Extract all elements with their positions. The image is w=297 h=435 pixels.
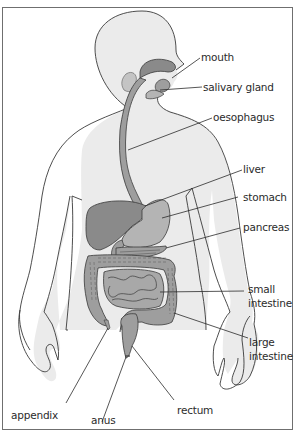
rectum-shape [121,314,138,358]
label-small-intestine-line2: intestine [248,297,292,309]
label-large-intestine-line2: intestine [249,350,293,362]
label-oesophagus: oesophagus [213,111,274,123]
label-anus: anus [91,414,115,426]
label-liver: liver [243,163,265,175]
label-appendix: appendix [11,409,58,421]
label-pancreas: pancreas [243,221,289,233]
label-mouth: mouth [201,51,234,63]
label-salivary-gland: salivary gland [203,81,274,93]
label-rectum: rectum [177,404,213,416]
digestive-system-illustration [0,0,297,435]
label-large-intestine-line1: large [249,336,275,348]
label-stomach: stomach [243,191,287,203]
label-small-intestine-line1: small [248,283,275,295]
